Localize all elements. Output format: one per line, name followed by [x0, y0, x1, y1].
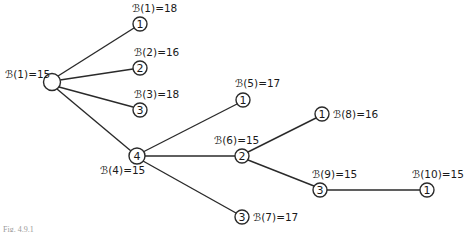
edge-root-n1: [58, 28, 134, 76]
tree-node-n5: 1: [236, 93, 250, 107]
node-label: 1: [137, 18, 144, 31]
node-label: 2: [137, 62, 144, 75]
edge-n4-n7: [143, 161, 236, 213]
tree-node-n9: 3: [313, 183, 327, 197]
edge-root-n2: [60, 69, 133, 80]
bound-label-n7: ℬ(7)=17: [253, 211, 298, 223]
bound-label-n10: ℬ(10)=15: [412, 168, 464, 180]
tree-node-n7: 3: [235, 210, 249, 224]
bound-label-n8: ℬ(8)=16: [333, 108, 379, 120]
tree-node-n2: 2: [133, 61, 147, 75]
bound-label-n2: ℬ(2)=16: [134, 46, 180, 58]
node-label: 3: [137, 104, 144, 117]
tree-node-n6: 2: [235, 149, 249, 163]
bound-label-n3: ℬ(3)=18: [134, 88, 179, 100]
tree-node-n4: 4: [129, 148, 145, 164]
tree-edges: [57, 28, 420, 213]
bound-label-n6: ℬ(6)=15: [214, 134, 259, 146]
edge-root-n3: [59, 87, 133, 107]
tree-node-n3: 3: [133, 103, 147, 117]
bound-label-n5: ℬ(5)=17: [235, 77, 280, 89]
node-label: 2: [239, 150, 246, 163]
branch-and-bound-tree: ℬ(1)=15 1 ℬ(1)=18 2 ℬ(2)=16 3 ℬ(3)=18 4 …: [0, 0, 467, 232]
node-label: 1: [240, 94, 247, 107]
node-label: 3: [239, 211, 246, 224]
bound-label-n1: ℬ(1)=18: [132, 2, 177, 14]
tree-node-n10: 1: [420, 183, 434, 197]
node-label: 3: [317, 184, 324, 197]
bound-label-n9: ℬ(9)=15: [312, 168, 357, 180]
bound-label-root: ℬ(1)=15: [5, 68, 50, 80]
node-label: 1: [319, 108, 326, 121]
node-label: 4: [134, 150, 141, 163]
node-label: 1: [424, 184, 431, 197]
bound-label-n4: ℬ(4)=15: [100, 164, 145, 176]
tree-node-n8: 1: [315, 107, 329, 121]
edge-n6-n9: [248, 160, 314, 186]
tree-node-n1: 1: [133, 17, 147, 31]
edge-root-n4: [57, 89, 131, 151]
figure-caption: Fig. 4.9.1: [3, 225, 34, 232]
